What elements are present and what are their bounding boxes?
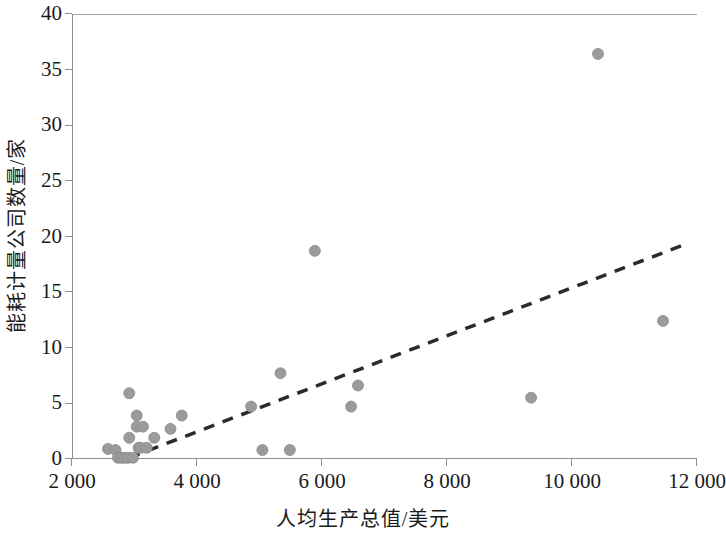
y-axis-tick-mark bbox=[65, 291, 72, 292]
y-axis-tick-label: 25 bbox=[41, 170, 62, 191]
data-point bbox=[131, 410, 142, 421]
y-axis-tick-mark bbox=[65, 180, 72, 181]
x-axis-tick-label: 6 000 bbox=[298, 471, 345, 492]
x-axis-tick-label: 2 000 bbox=[48, 471, 95, 492]
y-axis-tick-mark bbox=[65, 69, 72, 70]
trend-line-path bbox=[129, 244, 685, 458]
y-axis-tick-mark bbox=[65, 13, 72, 14]
plot-canvas bbox=[73, 15, 698, 460]
y-axis-tick-mark bbox=[65, 347, 72, 348]
y-axis-title-label: 能耗计量公司数量/家 bbox=[2, 137, 31, 333]
x-axis-tick-label: 12 000 bbox=[668, 471, 726, 492]
y-axis-tick-mark bbox=[65, 236, 72, 237]
x-axis-tick-mark bbox=[196, 459, 197, 466]
data-point bbox=[165, 423, 176, 434]
y-axis-tick-label: 30 bbox=[41, 114, 62, 135]
data-point bbox=[124, 388, 135, 399]
x-axis-tick-label: 8 000 bbox=[423, 471, 470, 492]
data-point bbox=[526, 392, 537, 403]
y-axis-tick-label: 5 bbox=[52, 392, 63, 413]
x-axis-tick-label: 4 000 bbox=[173, 471, 220, 492]
data-point bbox=[128, 452, 139, 463]
x-axis-tick-mark bbox=[446, 459, 447, 466]
data-point bbox=[346, 401, 357, 412]
data-point bbox=[275, 368, 286, 379]
data-point bbox=[246, 401, 257, 412]
data-point bbox=[257, 444, 268, 455]
x-axis-tick-mark bbox=[321, 459, 322, 466]
y-axis-tick-label: 0 bbox=[52, 448, 63, 469]
x-axis-title: 人均生产总值/美元 bbox=[0, 503, 726, 532]
y-axis-title: 能耗计量公司数量/家 bbox=[2, 0, 30, 470]
y-axis-tick-mark bbox=[65, 403, 72, 404]
data-points-group bbox=[103, 48, 669, 463]
data-point bbox=[593, 48, 604, 59]
data-point bbox=[176, 410, 187, 421]
data-point bbox=[284, 444, 295, 455]
y-axis-tick-label: 35 bbox=[41, 59, 62, 80]
data-point bbox=[141, 442, 152, 453]
data-point bbox=[658, 315, 669, 326]
x-axis-tick-mark bbox=[571, 459, 572, 466]
scatter-chart-figure: 能耗计量公司数量/家 05101520253035402 0004 0006 0… bbox=[0, 0, 726, 537]
data-point bbox=[353, 380, 364, 391]
y-axis-tick-label: 20 bbox=[41, 226, 62, 247]
y-axis-tick-label: 40 bbox=[41, 3, 62, 24]
data-point bbox=[138, 421, 149, 432]
data-point bbox=[149, 432, 160, 443]
x-axis-tick-label: 10 000 bbox=[543, 471, 601, 492]
trend-line bbox=[129, 244, 685, 458]
y-axis-tick-label: 10 bbox=[41, 337, 62, 358]
y-axis-tick-label: 15 bbox=[41, 281, 62, 302]
data-point bbox=[309, 245, 320, 256]
x-axis-tick-mark bbox=[696, 459, 697, 466]
plot-area bbox=[72, 14, 697, 459]
y-axis-tick-mark bbox=[65, 125, 72, 126]
x-axis-tick-mark bbox=[71, 459, 72, 466]
data-point bbox=[124, 432, 135, 443]
